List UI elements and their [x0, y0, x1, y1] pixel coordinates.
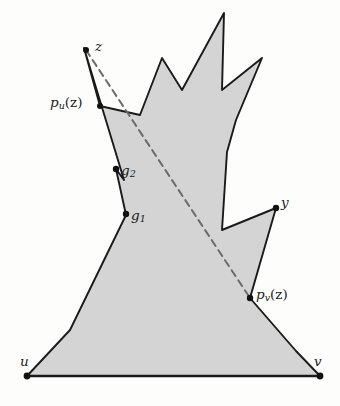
vertex-dot-u [24, 373, 31, 380]
label-y: y [281, 196, 289, 210]
label-v: v [314, 355, 322, 369]
label-g2: g2 [121, 164, 136, 179]
label-pv-base: p [256, 286, 265, 302]
vertex-dot-y [273, 205, 279, 211]
vertex-dot-v [317, 373, 324, 380]
label-g2-subscript: 2 [130, 168, 136, 179]
label-z-text: z [95, 38, 102, 54]
vertex-dot-pu [97, 103, 103, 109]
label-pu-argument: (z) [65, 94, 83, 110]
vertex-dot-g2 [113, 166, 119, 172]
vertex-dot-z [83, 47, 89, 53]
label-pu-base: p [50, 94, 59, 110]
vertex-dot-g1 [123, 211, 129, 217]
label-u: u [20, 355, 29, 369]
label-v-text: v [314, 353, 322, 369]
vertex-dot-pv [247, 295, 253, 301]
label-g2-base: g [121, 162, 130, 178]
label-g1: g1 [131, 209, 146, 224]
label-g1-base: g [131, 207, 140, 223]
polygon-diagram [0, 0, 340, 406]
label-pv-of-z: pv(z) [256, 288, 288, 303]
label-u-text: u [20, 353, 29, 369]
figure-canvas: z pu(z) g2 g1 y pv(z) u v [0, 0, 340, 406]
label-pu-of-z: pu(z) [50, 96, 82, 111]
label-y-text: y [281, 194, 289, 210]
shaded-polygon [27, 13, 320, 376]
label-g1-subscript: 1 [140, 213, 146, 224]
label-z: z [95, 40, 102, 54]
label-pv-argument: (z) [270, 286, 288, 302]
